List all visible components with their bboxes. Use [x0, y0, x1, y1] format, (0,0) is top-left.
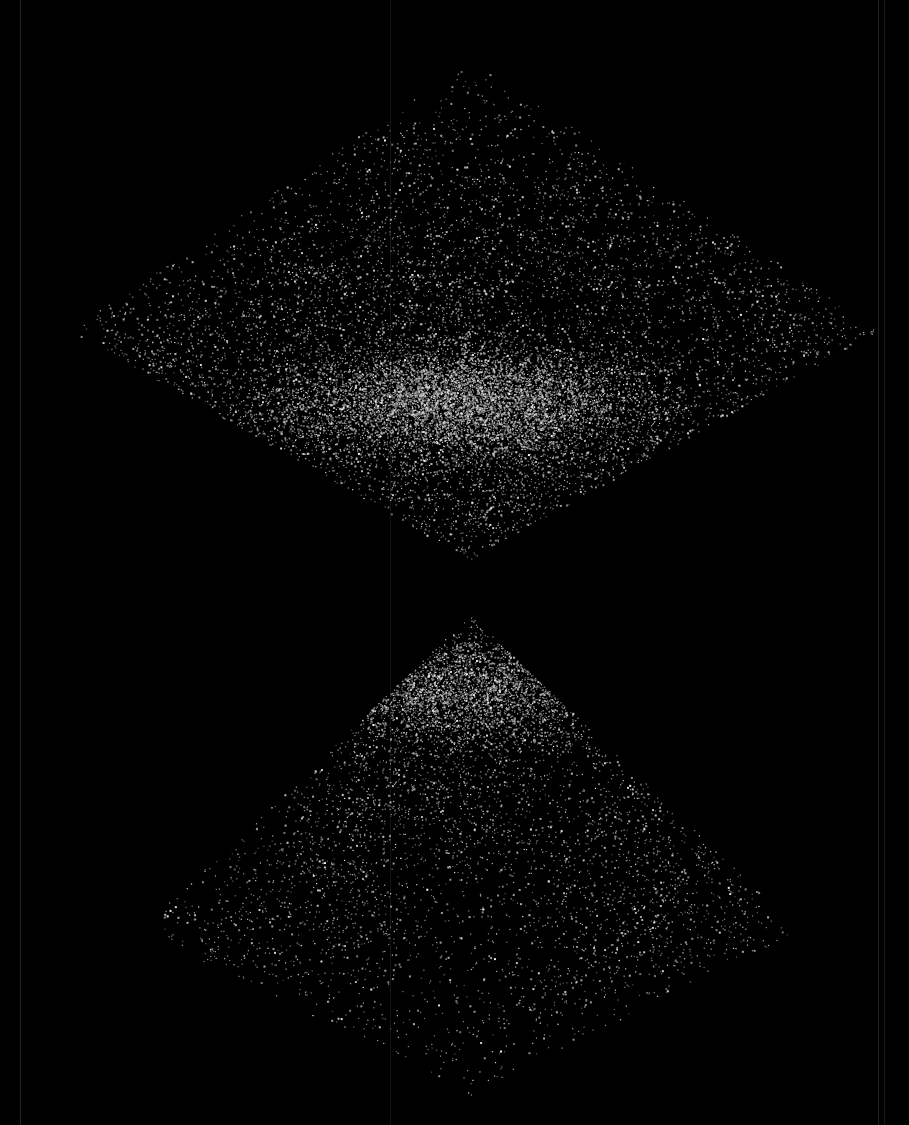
galaxy-survey-image — [0, 0, 909, 1125]
